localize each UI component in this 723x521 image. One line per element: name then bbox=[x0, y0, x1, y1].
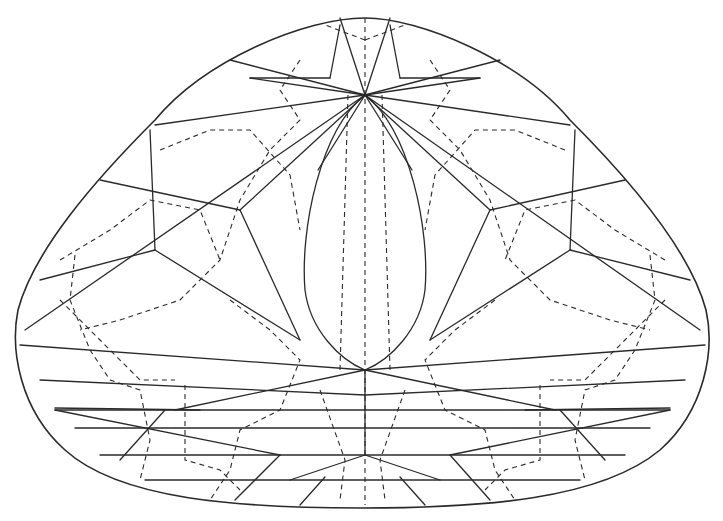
pavilion-facets bbox=[60, 18, 665, 505]
gem-facet-diagram bbox=[0, 0, 723, 521]
crown-facets bbox=[20, 18, 705, 505]
